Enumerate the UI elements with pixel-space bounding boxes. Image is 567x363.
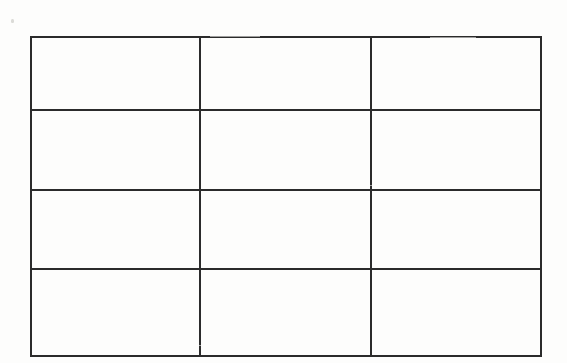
table-cell[interactable] [31, 37, 200, 110]
table-row [31, 110, 541, 190]
table-cell[interactable] [371, 269, 541, 356]
table-body [31, 37, 541, 356]
table-cell[interactable] [31, 110, 200, 190]
table-row [31, 269, 541, 356]
table-cell[interactable] [371, 37, 541, 110]
table-cell[interactable] [200, 190, 371, 269]
table-cell[interactable] [371, 110, 541, 190]
page-canvas [0, 0, 567, 363]
table-cell[interactable] [371, 190, 541, 269]
table-cell[interactable] [200, 37, 371, 110]
table-cell[interactable] [31, 190, 200, 269]
table-row [31, 190, 541, 269]
scan-speck-artifact [11, 19, 14, 23]
table-row [31, 37, 541, 110]
table-cell[interactable] [200, 269, 371, 356]
table-cell[interactable] [200, 110, 371, 190]
blank-grid-table[interactable] [30, 36, 542, 357]
table-cell[interactable] [31, 269, 200, 356]
